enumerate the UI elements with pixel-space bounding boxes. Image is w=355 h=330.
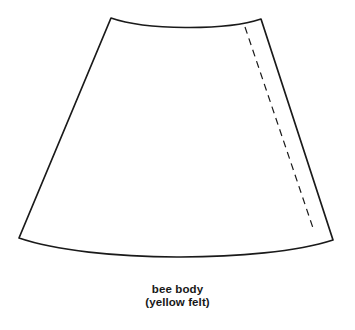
caption-material: (yellow felt) [0, 296, 355, 309]
caption-block: bee body (yellow felt) [0, 283, 355, 309]
pattern-piece-drawing [0, 0, 355, 330]
pattern-sheet: bee body (yellow felt) [0, 0, 355, 330]
bee-body-outline-shape [19, 18, 333, 257]
caption-piece-name: bee body [0, 283, 355, 296]
